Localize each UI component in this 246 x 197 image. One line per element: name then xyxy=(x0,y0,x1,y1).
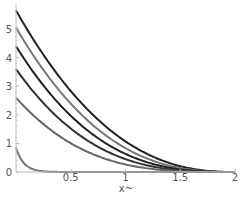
y-tick-label: 0 xyxy=(6,167,12,178)
y-tick-label: 2 xyxy=(6,110,12,121)
y-tick-label: 3 xyxy=(6,81,12,92)
x-tick-label: 2 xyxy=(232,172,238,183)
x-tick-label: 1 xyxy=(122,172,128,183)
y-tick-label: 5 xyxy=(6,24,12,35)
x-tick-label: 0.5 xyxy=(63,172,79,183)
plot-curves xyxy=(16,10,235,172)
curve-4 xyxy=(16,69,235,172)
y-tick-label: 4 xyxy=(6,53,12,64)
curve-2 xyxy=(16,28,235,172)
line-chart: 012345 0.511.52 x~ xyxy=(0,0,246,197)
x-axis-label: x~ xyxy=(119,183,133,194)
x-tick-label: 1.5 xyxy=(172,172,188,183)
y-tick-label: 1 xyxy=(6,138,12,149)
